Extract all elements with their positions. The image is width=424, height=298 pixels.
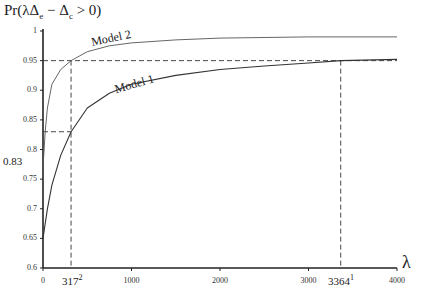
annotation-3364: 33641 [328, 273, 354, 287]
axes [40, 29, 397, 271]
y-tick-label: 0.65 [7, 233, 37, 242]
y-tick-label: 0.85 [7, 115, 37, 124]
x-tick-label: 2000 [205, 276, 235, 285]
y-tick-label: 0.95 [7, 56, 37, 65]
curves [43, 37, 397, 239]
x-axis-label: λ [402, 252, 411, 273]
x-tick-label: 4000 [382, 276, 412, 285]
y-tick-label: 0.6 [7, 263, 37, 272]
x-tick-label: 1000 [117, 276, 147, 285]
y-tick-label: 0.7 [7, 204, 37, 213]
y-tick-label: 0.9 [7, 85, 37, 94]
y-tick-label: 1 [7, 26, 37, 35]
annotation-083: 0.83 [3, 155, 22, 167]
x-tick-label: 0 [28, 276, 58, 285]
y-axis-label: Pr(λΔe − Δc > 0) [4, 2, 101, 21]
x-tick-label: 3000 [294, 276, 324, 285]
guide-lines [43, 61, 397, 268]
chart-canvas [0, 0, 424, 298]
annotation-317: 3172 [62, 273, 83, 287]
y-tick-label: 0.75 [7, 174, 37, 183]
y-tick-label: 0.8 [7, 145, 37, 154]
